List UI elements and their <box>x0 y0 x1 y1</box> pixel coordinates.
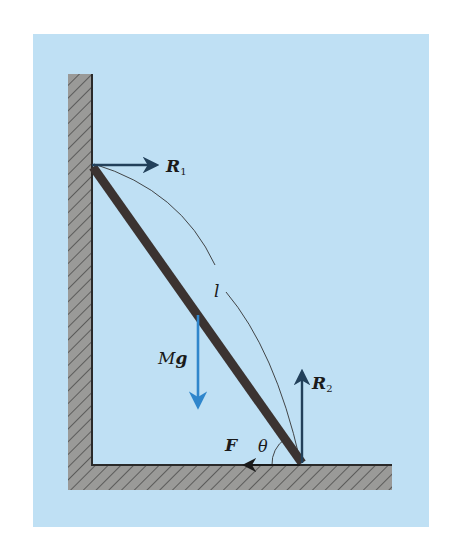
label-length: l <box>214 281 219 301</box>
label-angle: θ <box>258 437 268 456</box>
label-weight: Mg <box>157 348 187 368</box>
label-friction: F <box>224 435 239 455</box>
ladder-diagram: R1 R2 l Mg F θ <box>0 0 455 555</box>
